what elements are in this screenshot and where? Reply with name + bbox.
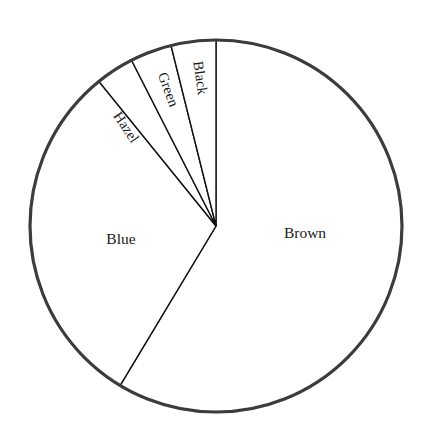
pie-chart-container: Brown Blue Hazel Green Black <box>0 0 435 445</box>
slice-label-blue: Blue <box>106 230 135 247</box>
slice-label-brown: Brown <box>284 224 326 241</box>
pie-slices-group <box>30 40 402 412</box>
pie-chart-svg: Brown Blue Hazel Green Black <box>0 0 435 445</box>
